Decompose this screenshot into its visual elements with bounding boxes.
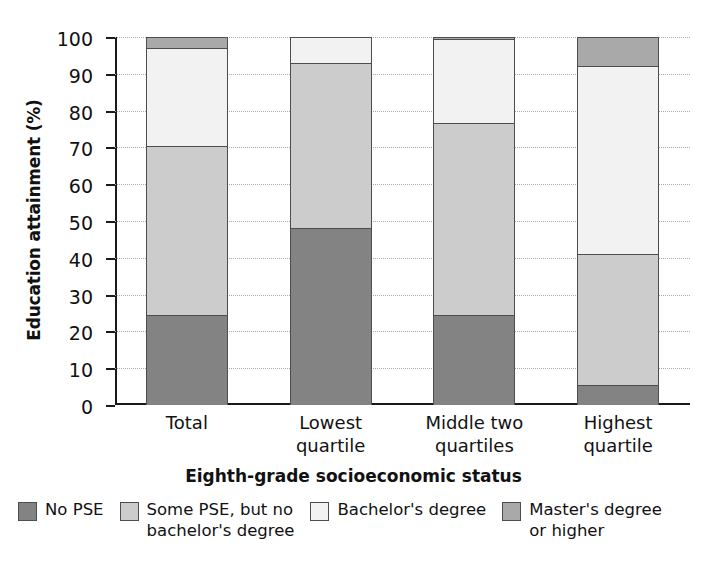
y-axis-tick-label: 10: [69, 359, 93, 381]
y-axis-tick-label: 100: [57, 28, 93, 50]
bar-lowest-quartile: [290, 37, 372, 405]
bar-segment: [434, 37, 514, 39]
bar-segment: [147, 48, 227, 146]
y-axis-tick: 50: [106, 221, 115, 223]
x-axis-title: Eighth-grade socioeconomic status: [0, 466, 707, 486]
y-axis-tick: 80: [106, 111, 115, 113]
legend-swatch-icon: [18, 502, 37, 521]
legend-item-2[interactable]: Some PSE, but no bachelor's degree: [120, 500, 295, 541]
bar-segment: [434, 123, 514, 314]
bar-total: [146, 37, 228, 405]
bar-segment: [147, 146, 227, 315]
legend-label: Some PSE, but no bachelor's degree: [147, 500, 295, 541]
bar-segment: [291, 37, 371, 63]
legend-item-4[interactable]: Master's degree or higher: [502, 500, 662, 541]
bar-segment: [434, 39, 514, 124]
legend-swatch-icon: [502, 502, 521, 521]
bar-segment: [578, 385, 658, 405]
bar-segment: [291, 63, 371, 229]
x-tick-label-line: quartile: [528, 435, 707, 458]
y-axis-tick-label: 70: [69, 138, 93, 160]
y-axis-tick: 0: [106, 405, 115, 407]
bar-segment: [291, 228, 371, 405]
y-axis-tick-label: 90: [69, 65, 93, 87]
legend-swatch-icon: [310, 502, 329, 521]
legend-swatch-icon: [120, 502, 139, 521]
x-tick-label-line: Highest: [528, 412, 707, 435]
y-axis-tick: 20: [106, 331, 115, 333]
x-tick-label-highest-quartile: Highestquartile: [528, 412, 707, 457]
legend-item-1[interactable]: No PSE: [18, 500, 104, 521]
y-axis-tick: 30: [106, 295, 115, 297]
y-axis-tick-label: 30: [69, 286, 93, 308]
bar-segment: [578, 37, 658, 66]
chart-legend: No PSESome PSE, but no bachelor's degree…: [18, 500, 698, 541]
y-axis-tick: 10: [106, 368, 115, 370]
y-axis-tick-label: 60: [69, 175, 93, 197]
y-axis-title: Education attainment (%): [24, 40, 44, 400]
y-axis-tick: 60: [106, 184, 115, 186]
y-axis-tick-label: 40: [69, 249, 93, 271]
y-axis-tick: 100: [106, 37, 115, 39]
bar-segment: [578, 254, 658, 385]
bar-segment: [147, 37, 227, 48]
bar-middle-two-quartiles: [433, 37, 515, 405]
legend-label: Master's degree or higher: [529, 500, 662, 541]
y-axis-tick-label: 20: [69, 322, 93, 344]
legend-label: No PSE: [45, 500, 104, 521]
chart-figure: Education attainment (%) 010203040506070…: [0, 0, 707, 563]
y-axis-tick: 90: [106, 74, 115, 76]
legend-item-3[interactable]: Bachelor's degree: [310, 500, 486, 521]
legend-label: Bachelor's degree: [337, 500, 486, 521]
y-axis-tick-label: 80: [69, 102, 93, 124]
bar-highest-quartile: [577, 37, 659, 405]
y-axis-tick: 40: [106, 258, 115, 260]
bar-segment: [578, 66, 658, 254]
y-axis-tick: 70: [106, 147, 115, 149]
plot-area: 0102030405060708090100: [115, 37, 690, 405]
y-axis-tick-label: 0: [81, 396, 93, 418]
bar-segment: [434, 315, 514, 405]
bar-segment: [147, 315, 227, 405]
y-axis-tick-label: 50: [69, 212, 93, 234]
